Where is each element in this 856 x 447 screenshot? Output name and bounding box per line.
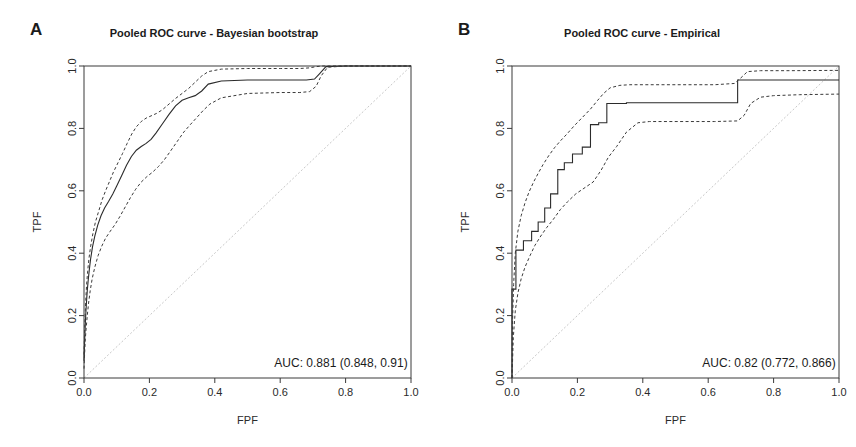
y-tick-label: 0.4 — [66, 246, 78, 261]
x-tick-label: 1.0 — [831, 386, 846, 398]
roc-curve — [512, 80, 839, 378]
y-tick-label: 0.2 — [494, 308, 506, 323]
y-tick-label: 0.2 — [66, 308, 78, 323]
x-tick-label: 0.6 — [701, 386, 716, 398]
y-tick-label: 1.0 — [66, 58, 78, 73]
x-tick-label: 0.6 — [273, 386, 288, 398]
roc-confidence-band — [84, 66, 411, 369]
x-tick-label: 1.0 — [403, 386, 418, 398]
y-tick-label: 0.8 — [494, 121, 506, 136]
panel-a-plot: 0.00.20.40.60.81.00.00.20.40.60.81.0FPFT… — [0, 0, 428, 447]
x-tick-label: 0.0 — [504, 386, 519, 398]
y-tick-label: 0.0 — [494, 370, 506, 385]
y-tick-label: 0.6 — [494, 183, 506, 198]
y-tick-label: 0.0 — [66, 370, 78, 385]
panel-b: B Pooled ROC curve - Empirical 0.00.20.4… — [428, 0, 856, 447]
x-tick-label: 0.8 — [766, 386, 781, 398]
auc-annotation: AUC: 0.82 (0.772, 0.866) — [702, 356, 835, 370]
x-tick-label: 0.2 — [142, 386, 157, 398]
y-tick-label: 1.0 — [494, 58, 506, 73]
y-tick-label: 0.6 — [66, 183, 78, 198]
x-axis-title: FPF — [665, 414, 686, 426]
x-tick-label: 0.4 — [635, 386, 650, 398]
roc-confidence-band — [84, 66, 411, 355]
panel-b-plot: 0.00.20.40.60.81.00.00.20.40.60.81.0FPFT… — [428, 0, 856, 447]
y-axis-title: TPF — [459, 211, 471, 232]
y-tick-label: 0.8 — [66, 121, 78, 136]
x-tick-label: 0.4 — [207, 386, 222, 398]
roc-figure: A Pooled ROC curve - Bayesian bootstrap … — [0, 0, 856, 447]
x-tick-label: 0.2 — [570, 386, 585, 398]
panel-a: A Pooled ROC curve - Bayesian bootstrap … — [0, 0, 428, 447]
roc-confidence-band — [512, 70, 839, 378]
x-tick-label: 0.0 — [76, 386, 91, 398]
x-tick-label: 0.8 — [338, 386, 353, 398]
roc-confidence-band — [512, 94, 839, 378]
roc-curve — [84, 66, 411, 361]
y-tick-label: 0.4 — [494, 246, 506, 261]
y-axis-title: TPF — [31, 211, 43, 232]
x-axis-title: FPF — [237, 414, 258, 426]
reference-diagonal — [512, 66, 839, 378]
auc-annotation: AUC: 0.881 (0.848, 0.91) — [274, 356, 407, 370]
reference-diagonal — [84, 66, 411, 378]
